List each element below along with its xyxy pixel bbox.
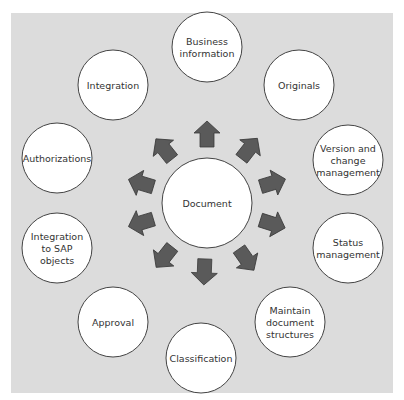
node-integration: Integration [78,50,148,120]
arrow-version-and-change-management [257,167,289,199]
document-management-diagram: DocumentBusinessinformationOriginalsVers… [0,0,404,400]
node-classification: Classification [166,323,236,393]
node-label: Maintaindocumentstructures [266,305,314,340]
node-business-information: Businessinformation [172,12,242,82]
node-label: Classification [170,353,233,364]
node-maintain-document-structures: Maintaindocumentstructures [255,287,325,357]
arrow-status-management [256,208,289,241]
node-label: Originals [278,80,320,91]
node-label: Businessinformation [180,36,235,59]
arrow-originals [231,130,267,166]
node-label: Authorizations [23,153,92,164]
node-label: Approval [92,317,134,328]
node-label: Integration [87,80,139,91]
node-document: Document [162,158,252,248]
node-version-and-change-management: Version andchangemanagement [313,125,383,195]
arrow-authorizations [125,167,157,199]
arrow-classification [191,258,218,285]
arrow-integration [146,131,183,168]
node-authorizations: Authorizations [22,123,92,193]
arrow-business-information [194,121,220,147]
arrow-approval [146,239,183,276]
node-approval: Approval [78,287,148,357]
node-label: Document [182,198,231,209]
arrow-maintain-document-structures [228,241,264,277]
arrow-integration-to-sap-objects [125,207,157,239]
node-status-management: Statusmanagement [313,213,383,283]
node-originals: Originals [264,50,334,120]
node-integration-to-sap-objects: Integrationto SAPobjects [22,213,92,283]
